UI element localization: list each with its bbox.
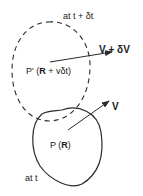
point-label-initial-prefix: P (	[50, 140, 61, 150]
point-label-later-prefix: P' (	[26, 66, 39, 76]
point-label-initial-suffix: )	[68, 140, 71, 150]
velocity-label-initial: V	[112, 102, 119, 112]
velocity-arrow-initial	[68, 101, 109, 130]
fluid-element-diagram	[0, 0, 143, 196]
time-label-initial: at t	[25, 174, 38, 183]
velocity-label-later: V + δV	[99, 45, 130, 55]
point-label-initial: P (R)	[50, 141, 71, 150]
time-label-later: at t + δt	[63, 12, 93, 21]
point-label-later: P' (R + vδt)	[26, 67, 71, 76]
point-label-later-suffix: + vδt)	[46, 66, 71, 76]
